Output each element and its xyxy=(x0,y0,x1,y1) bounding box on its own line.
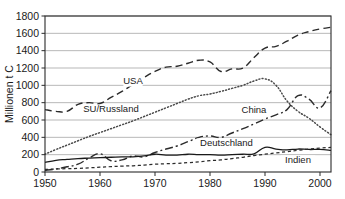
series-label-deutschland: Deutschland xyxy=(200,137,253,148)
x-tick-label: 1950 xyxy=(33,177,57,189)
x-tick-label: 2000 xyxy=(308,177,332,189)
emissions-line-chart: 0200400600800100012001400160018001950196… xyxy=(0,0,345,199)
y-tick-label: 1200 xyxy=(16,62,40,74)
y-tick-label: 800 xyxy=(21,96,39,108)
x-tick-label: 1960 xyxy=(88,177,112,189)
gridlines xyxy=(45,16,331,155)
y-axis: 020040060080010001200140016001800 xyxy=(16,10,45,178)
y-axis-title: Millionen t C xyxy=(3,65,15,123)
y-tick-label: 0 xyxy=(33,166,39,178)
y-tick-label: 1600 xyxy=(16,27,40,39)
series-label-usa: USA xyxy=(123,75,143,86)
chart-canvas: 0200400600800100012001400160018001950196… xyxy=(0,0,345,199)
series-group xyxy=(45,27,331,170)
y-tick-label: 600 xyxy=(21,114,39,126)
series-label-su-russland: SU/Russland xyxy=(83,103,138,114)
y-tick-label: 200 xyxy=(21,148,39,160)
y-tick-label: 1800 xyxy=(16,10,40,22)
y-tick-label: 400 xyxy=(21,131,39,143)
plot-frame xyxy=(45,16,331,172)
y-tick-label: 1000 xyxy=(16,79,40,91)
y-tick-label: 1400 xyxy=(16,44,40,56)
x-axis: 195019601970198019902000 xyxy=(33,172,332,189)
series-label-china: China xyxy=(242,104,268,115)
series-label-indien: Indien xyxy=(285,154,311,165)
x-tick-label: 1990 xyxy=(253,177,277,189)
series-line-su-russland xyxy=(45,79,331,155)
x-tick-label: 1980 xyxy=(198,177,222,189)
x-tick-label: 1970 xyxy=(143,177,167,189)
